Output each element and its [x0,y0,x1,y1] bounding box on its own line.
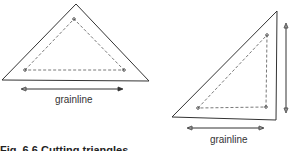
right-triangle-outline [172,11,277,120]
diagram-canvas [0,0,294,151]
left-seam-line [25,19,124,70]
left-grainline-label: grainline [55,93,92,105]
figure-caption: Fig. 6.6 Cutting triangles [0,144,128,151]
right-triangle-piece [172,11,277,120]
right-grainline-label: grainline [210,133,247,145]
left-triangle-piece [2,4,149,81]
right-vertical-grainline-arrow [284,23,288,113]
right-grainline-arrow [187,126,264,130]
left-grainline-arrow [21,87,123,91]
right-seam-line [198,35,267,108]
